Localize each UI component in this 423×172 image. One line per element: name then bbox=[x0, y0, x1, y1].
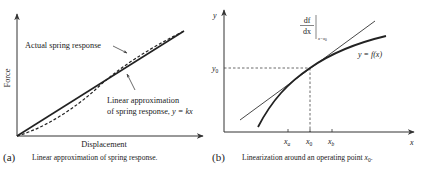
linear-approx-label-line2: of spring response, y = kx bbox=[107, 107, 193, 116]
curve-label: y = f(x) bbox=[357, 50, 382, 59]
caption-a: Linear approximation of spring response. bbox=[32, 153, 158, 162]
figure: Actual spring response Linear approximat… bbox=[0, 0, 423, 172]
derivative-numerator: df bbox=[304, 16, 311, 25]
caption-b: Linearization around an operating point … bbox=[242, 153, 373, 163]
linear-approx-equation: y = kx bbox=[171, 107, 193, 116]
x-axis-label: Displacement bbox=[81, 140, 127, 149]
derivative-denominator: dx bbox=[303, 27, 311, 36]
linear-approx-label-line1: Linear approximation bbox=[107, 96, 180, 105]
y-axis-label: Force bbox=[3, 68, 12, 87]
actual-response-label: Actual spring response bbox=[25, 41, 101, 50]
actual-arrow-icon bbox=[113, 46, 127, 53]
y-axis-label: y bbox=[212, 11, 217, 20]
panel-tag-a: (a) bbox=[3, 151, 16, 164]
linear-arrow-icon bbox=[127, 74, 135, 90]
x-axis-label: x bbox=[409, 138, 414, 147]
panel-b: xa x0 xb y x y0 y = f(x) df dx x=x0 (b) … bbox=[211, 10, 414, 164]
linear-approx-text: of spring response, bbox=[107, 107, 172, 116]
tick-label-xa: xa bbox=[283, 137, 291, 147]
tick-label-xb: xb bbox=[327, 137, 335, 147]
tick-label-x0: x0 bbox=[305, 137, 313, 147]
derivative-eval: x=x0 bbox=[317, 36, 327, 42]
panel-a: Actual spring response Linear approximat… bbox=[3, 14, 203, 164]
panel-tag-b: (b) bbox=[212, 151, 225, 164]
y0-label: y0 bbox=[211, 64, 219, 74]
derivative-label: df dx x=x0 bbox=[300, 15, 327, 42]
